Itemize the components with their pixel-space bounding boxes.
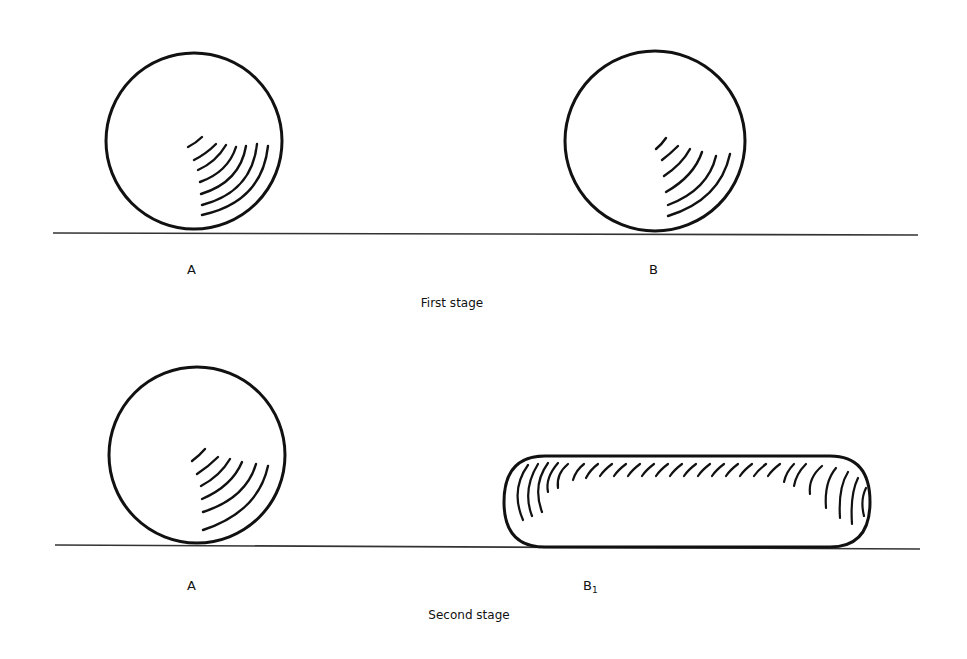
conservation-diagram xyxy=(0,0,967,659)
ground-line-first-stage xyxy=(53,233,918,235)
sausage-hatching xyxy=(518,463,866,524)
label-b-first-stage: B xyxy=(649,262,658,277)
caption-first-stage: First stage xyxy=(421,296,483,310)
label-b1-second-stage: B1 xyxy=(583,578,598,595)
label-a-first-stage: A xyxy=(187,262,196,277)
sphere-a-first-stage xyxy=(106,53,282,229)
caption-second-stage: Second stage xyxy=(428,608,509,622)
label-b1-letter: B xyxy=(583,578,592,593)
second-stage xyxy=(55,367,920,549)
first-stage xyxy=(53,51,918,235)
label-a-second-stage: A xyxy=(187,578,196,593)
label-b1-subscript: 1 xyxy=(592,585,598,595)
sphere-a-second-stage xyxy=(109,367,285,543)
sphere-b-first-stage xyxy=(565,51,745,231)
sausage-b1-second-stage xyxy=(504,456,870,547)
